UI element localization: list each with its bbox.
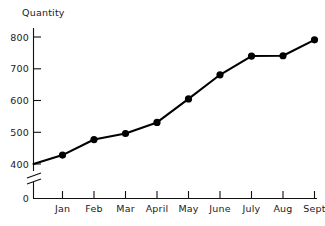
x-tick-label-sept: Sept xyxy=(303,203,325,214)
x-tick-label-april: April xyxy=(146,203,169,214)
x-tick-label-may: May xyxy=(178,203,198,214)
y-tick-label-0: 0 xyxy=(23,193,29,204)
y-tick-label-600: 600 xyxy=(10,95,29,106)
x-tick-label-jan: Jan xyxy=(54,203,70,214)
y-tick-label-500: 500 xyxy=(10,127,29,138)
line-chart: Quantity 800 700 600 500 400 0 xyxy=(0,0,325,226)
y-tick-marks xyxy=(34,37,42,164)
y-axis-title: Quantity xyxy=(22,7,65,18)
data-point-mar xyxy=(122,130,129,137)
y-tick-label-400: 400 xyxy=(10,159,29,170)
x-tick-label-mar: Mar xyxy=(116,203,135,214)
series-markers-quantity xyxy=(59,36,318,158)
x-tick-label-june: June xyxy=(208,203,231,214)
data-point-feb xyxy=(90,136,97,143)
x-tick-label-july: July xyxy=(242,203,261,214)
x-tick-label-feb: Feb xyxy=(85,203,102,214)
chart-container: Quantity 800 700 600 500 400 0 xyxy=(0,0,325,226)
x-tick-label-aug: Aug xyxy=(273,203,292,214)
data-point-jan xyxy=(59,152,66,159)
data-point-aug xyxy=(279,52,286,59)
data-point-may xyxy=(185,95,192,102)
y-tick-label-800: 800 xyxy=(10,32,29,43)
series-line-quantity xyxy=(34,40,315,164)
data-point-april xyxy=(153,119,160,126)
data-point-sept xyxy=(311,36,318,43)
axis-break-mark-upper xyxy=(27,173,41,178)
data-point-june xyxy=(216,71,223,78)
x-tick-marks xyxy=(63,191,315,199)
data-point-july xyxy=(248,52,255,59)
y-tick-label-700: 700 xyxy=(10,63,29,74)
